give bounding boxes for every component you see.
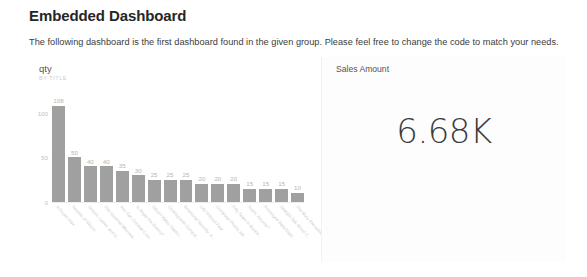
x-label-slot: You Can Combat Com... — [116, 204, 129, 260]
bar-rect[interactable] — [68, 157, 81, 202]
x-label-slot: Life Without Fear — [195, 204, 208, 260]
bar-data-label: 50 — [71, 150, 78, 156]
x-label-slot: Straight Talk About C... — [275, 204, 288, 260]
bar-rect[interactable] — [243, 189, 256, 202]
card-title: Sales Amount — [336, 64, 389, 74]
bar-data-label: 35 — [119, 163, 126, 169]
bar-data-label: 25 — [167, 172, 174, 178]
x-label-slot: Silicon Valley Gastro... — [148, 204, 161, 260]
y-axis-tick: 50 — [41, 154, 48, 161]
dashboard-tile-sales-amount[interactable]: Sales Amount 6.68K — [321, 57, 566, 262]
x-label-slot: Emotional Security: A ... — [180, 204, 193, 260]
bar-data-label: 30 — [135, 168, 142, 174]
y-axis-tick: 100 — [38, 109, 48, 116]
bar-data-label: 20 — [230, 176, 237, 182]
x-label-slot: Computer Phobic AN... — [211, 204, 224, 260]
bar-slot[interactable]: 40 — [84, 95, 97, 202]
x-label-slot: Is Anger the Enemy? — [132, 204, 145, 260]
chart-bars: 108504040353025252520202015151510 — [52, 95, 304, 202]
chart-plot-area: 108504040353025252520202015151510 — [52, 95, 304, 202]
bar-rect[interactable] — [116, 171, 129, 202]
bar-slot[interactable]: 25 — [164, 95, 177, 202]
bar-slot[interactable]: 40 — [100, 95, 113, 202]
bar-slot[interactable]: 50 — [68, 95, 81, 202]
bar-rect[interactable] — [195, 184, 208, 202]
bar-rect[interactable] — [180, 180, 193, 202]
x-label-slot: Prolonged Data Depri... — [259, 204, 272, 260]
page-title: Embedded Dashboard — [29, 7, 186, 24]
bar-data-label: 15 — [246, 181, 253, 187]
page-root: Embedded Dashboard The following dashboa… — [0, 0, 587, 277]
bar-slot[interactable]: 10 — [291, 95, 304, 202]
bar-data-label: 15 — [278, 181, 285, 187]
bar-rect[interactable] — [275, 189, 288, 202]
bar-rect[interactable] — [259, 189, 272, 202]
bar-slot[interactable]: 108 — [52, 95, 65, 202]
bar-data-label: 40 — [103, 159, 110, 165]
x-label-slot: Fifty Years in Buckin... — [227, 204, 240, 260]
bar-slot[interactable]: 25 — [148, 95, 161, 202]
x-label-slot: The Busy Executive's ... — [291, 204, 304, 260]
bar-rect[interactable] — [84, 166, 97, 202]
bar-data-label: 20 — [198, 176, 205, 182]
bar-data-label: 25 — [183, 172, 190, 178]
x-label-slot: Secrets of Silicon — [68, 204, 81, 260]
bar-slot[interactable]: 20 — [195, 95, 208, 202]
card-value: 6.68K — [322, 111, 566, 151]
embedded-dashboard[interactable]: qty BY TITLE 050100 10850404035302525252… — [25, 57, 566, 262]
bar-rect[interactable] — [148, 180, 161, 202]
bar-rect[interactable] — [164, 180, 177, 202]
page-description: The following dashboard is the first das… — [29, 37, 559, 47]
bar-slot[interactable]: 15 — [275, 95, 288, 202]
bar-slot[interactable]: 15 — [243, 95, 256, 202]
x-label-slot: The Gourmet Microwa... — [100, 204, 113, 260]
x-label-slot: Onions, Leeks, and G... — [84, 204, 97, 260]
bar-rect[interactable] — [211, 184, 224, 202]
bar-rect[interactable] — [291, 193, 304, 202]
bar-rect[interactable] — [52, 106, 65, 202]
bar-rect[interactable] — [100, 166, 113, 202]
chart-x-axis-line — [52, 202, 304, 203]
bar-data-label: 15 — [262, 181, 269, 187]
bar-data-label: 10 — [294, 185, 301, 191]
bar-slot[interactable]: 25 — [180, 95, 193, 202]
bar-slot[interactable]: 20 — [211, 95, 224, 202]
x-label-slot: A Dozen Wax — [52, 204, 65, 260]
bar-data-label: 40 — [87, 159, 94, 165]
bar-data-label: 25 — [151, 172, 158, 178]
bar-rect[interactable] — [132, 175, 145, 202]
chart-title: qty — [39, 63, 52, 74]
bar-data-label: 20 — [214, 176, 221, 182]
x-label-slot: Cooking with Comput... — [164, 204, 177, 260]
bar-rect[interactable] — [227, 184, 240, 202]
bar-slot[interactable]: 15 — [259, 95, 272, 202]
dashboard-tile-qty-by-title[interactable]: qty BY TITLE 050100 10850404035302525252… — [25, 57, 321, 262]
y-axis-tick: 0 — [45, 199, 48, 206]
x-label-slot: Sushi, Anyone? — [243, 204, 256, 260]
chart-x-axis-labels: A Dozen WaxSecrets of SiliconOnions, Lee… — [52, 204, 304, 260]
bar-slot[interactable]: 20 — [227, 95, 240, 202]
bar-slot[interactable]: 35 — [116, 95, 129, 202]
bar-slot[interactable]: 30 — [132, 95, 145, 202]
chart-subtitle: BY TITLE — [39, 75, 67, 81]
chart-y-axis: 050100 — [25, 95, 50, 202]
bar-data-label: 108 — [53, 98, 63, 104]
